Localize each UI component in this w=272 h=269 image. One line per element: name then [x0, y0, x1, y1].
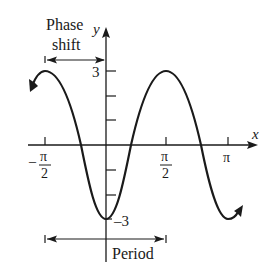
phase-shift-label-line1: Phase — [46, 16, 83, 33]
y-axis-label: y — [91, 21, 100, 37]
period-label: Period — [112, 245, 154, 262]
y-tick-label-3: 3 — [92, 64, 100, 80]
x-tick-label-neg-sign: – — [28, 154, 37, 169]
phase-shift-label-line2: shift — [52, 36, 81, 53]
x-tick-label-neg-half-pi-den: 2 — [41, 166, 48, 181]
x-tick-label-half-pi-den: 2 — [162, 166, 169, 181]
y-tick-label-neg3: –3 — [113, 213, 129, 229]
sinusoid-diagram: x y – π 2 π 2 π 3 –3 Phase shift Period — [0, 0, 272, 269]
x-tick-label-half-pi-num: π — [161, 149, 168, 164]
x-tick-label-neg-half-pi-num: π — [40, 149, 47, 164]
x-tick-label-pi: π — [223, 150, 230, 165]
x-axis-label: x — [251, 126, 259, 142]
